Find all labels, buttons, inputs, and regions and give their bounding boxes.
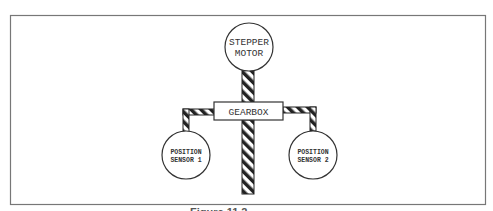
position-sensor-1: POSITION SENSOR 1 xyxy=(162,131,210,179)
sensor1-label-line1: POSITION xyxy=(170,149,201,156)
shaft-lower xyxy=(242,120,254,194)
gearbox-label: GEARBOX xyxy=(229,107,269,118)
gearbox: GEARBOX xyxy=(214,102,283,120)
motor-label-line2: MOTOR xyxy=(235,48,264,59)
figure-caption: Figure 11.2 ... xyxy=(190,206,260,211)
sensor2-label-line2: SENSOR 2 xyxy=(297,157,328,164)
motor-label-line1: STEPPER xyxy=(229,37,269,48)
position-sensor-2: POSITION SENSOR 2 xyxy=(289,131,337,179)
shaft-right-vertical xyxy=(310,107,316,131)
stepper-motor: STEPPER MOTOR xyxy=(225,23,273,71)
sensor1-label-line2: SENSOR 1 xyxy=(170,157,201,164)
shaft-upper xyxy=(242,70,254,103)
shaft-left-vertical xyxy=(183,109,189,132)
stepper-motor-diagram: STEPPER MOTOR GEARBOX POSITION SENSOR 1 … xyxy=(0,0,493,211)
sensor2-label-line1: POSITION xyxy=(297,149,328,156)
